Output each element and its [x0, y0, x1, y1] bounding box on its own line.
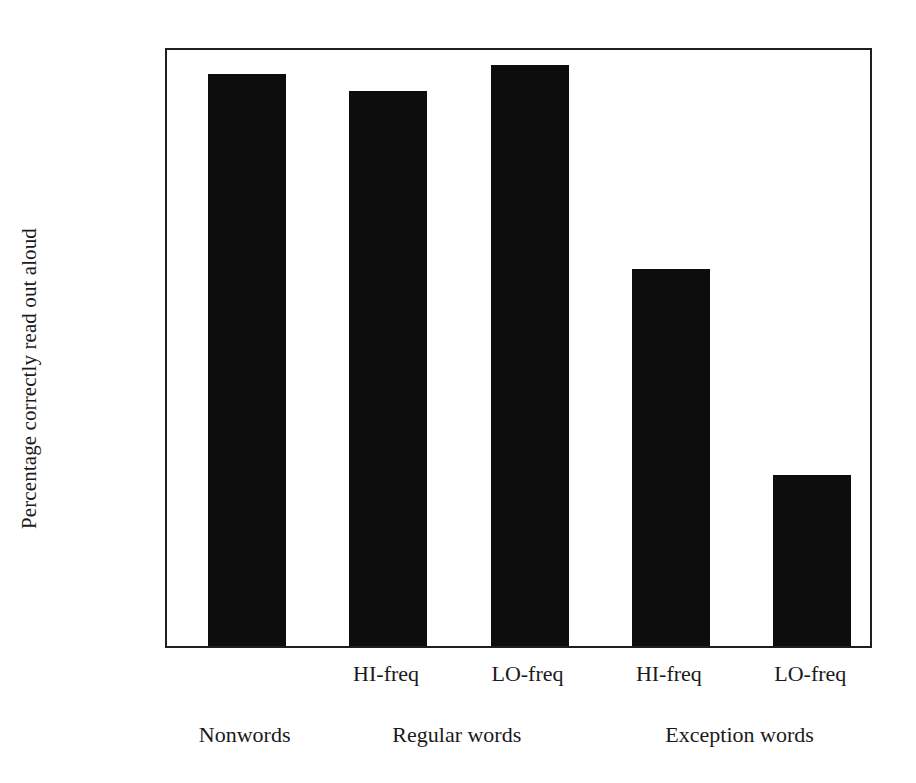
- y-axis-title: Percentage correctly read out aloud: [0, 0, 60, 783]
- plot-area: [165, 48, 872, 648]
- bar: [491, 65, 569, 646]
- bar: [349, 91, 427, 646]
- x-axis-group-label: Regular words: [347, 722, 567, 748]
- bar: [773, 475, 851, 646]
- x-axis-bar-label: HI-freq: [589, 661, 749, 687]
- x-axis-group-label: Exception words: [630, 722, 850, 748]
- x-axis-bar-label: HI-freq: [306, 661, 466, 687]
- bar: [208, 74, 286, 646]
- bar: [632, 269, 710, 646]
- bar-chart-figure: Percentage correctly read out aloud 00.1…: [0, 0, 916, 783]
- y-axis-title-text: Percentage correctly read out aloud: [17, 228, 44, 555]
- x-axis-group-label: Nonwords: [135, 722, 355, 748]
- x-axis-bar-label: LO-freq: [448, 661, 608, 687]
- x-axis-bar-label: LO-freq: [730, 661, 890, 687]
